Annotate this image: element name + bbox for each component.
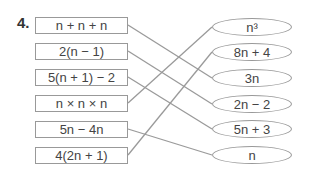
left-expression[interactable]: n + n + n: [35, 17, 128, 34]
right-expression[interactable]: 5n + 3: [212, 120, 292, 138]
right-expression[interactable]: 2n − 2: [212, 95, 292, 113]
right-expression[interactable]: n: [212, 146, 292, 164]
left-expression[interactable]: 5n − 4n: [35, 121, 128, 138]
left-expression[interactable]: n × n × n: [35, 95, 128, 112]
question-number: 4.: [17, 14, 30, 31]
left-expression[interactable]: 2(n − 1): [35, 43, 128, 60]
left-expression[interactable]: 4(2n + 1): [35, 147, 128, 164]
right-expression[interactable]: n³: [212, 18, 292, 36]
right-expression[interactable]: 8n + 4: [212, 43, 292, 61]
right-expression[interactable]: 3n: [212, 69, 292, 87]
left-expression[interactable]: 5(n + 1) − 2: [35, 69, 128, 86]
